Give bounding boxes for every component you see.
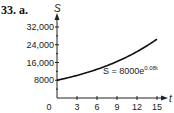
x-tick-label: 12 (132, 102, 142, 112)
x-tick-label: 9 (114, 102, 119, 112)
y-ticks: 800016,00024,00032,000 (26, 22, 59, 89)
y-tick-label: 24,000 (26, 40, 54, 50)
equation-annotation: S = 8000e0.08t (103, 65, 158, 76)
x-tick-label: 0 (46, 102, 51, 112)
x-tick-label: 3 (74, 102, 79, 112)
y-axis-label: S (54, 3, 61, 14)
chart: S t 800016,00024,00032,000 03691215 S = … (0, 0, 174, 113)
x-axis (57, 96, 168, 101)
y-axis (55, 13, 60, 98)
y-tick-label: 16,000 (26, 58, 54, 68)
y-tick-label: 32,000 (26, 22, 54, 32)
y-tick-label: 8000 (34, 75, 54, 85)
x-tick-label: 6 (94, 102, 99, 112)
x-tick-label: 15 (152, 102, 162, 112)
x-axis-label: t (169, 93, 173, 104)
